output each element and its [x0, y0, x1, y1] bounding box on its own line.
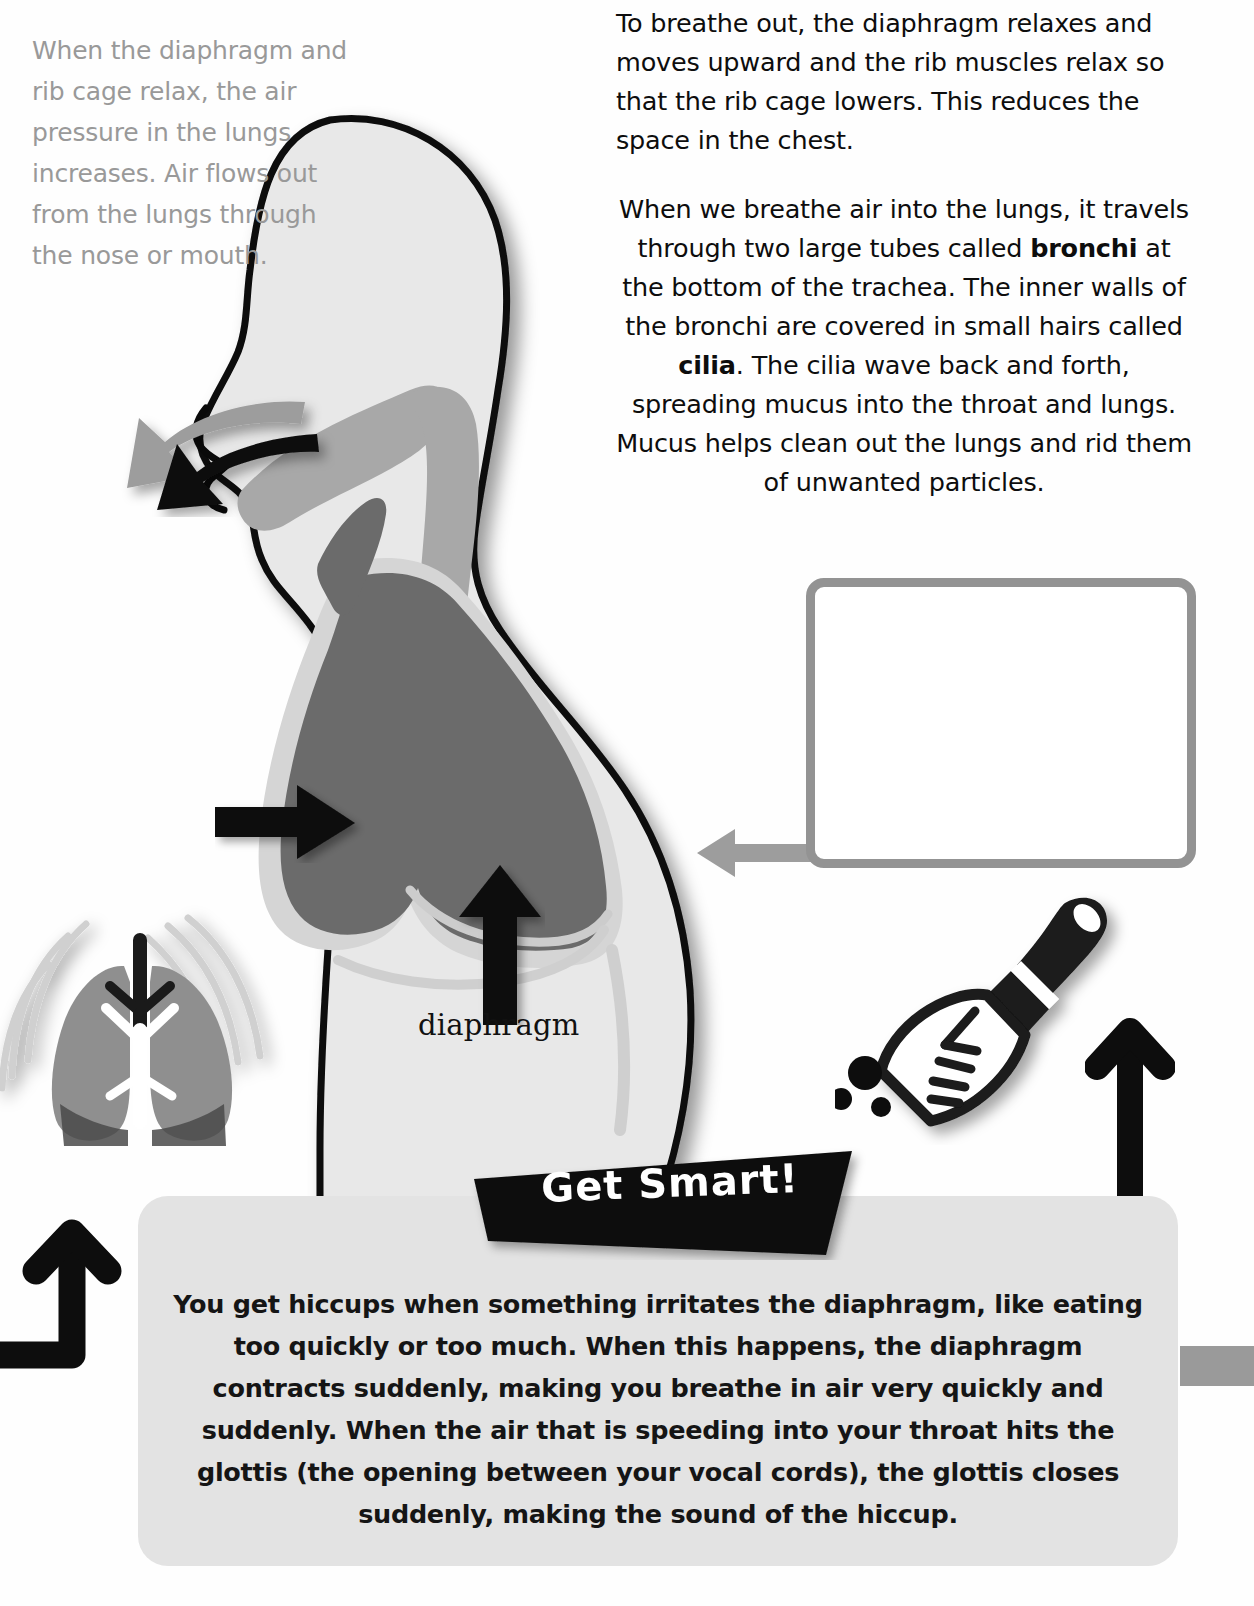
term-cilia: cilia [678, 350, 736, 380]
page-edge-tab [1180, 1346, 1254, 1386]
term-bronchi: bronchi [1030, 233, 1137, 263]
callout-box-text: When the diaphragm and rib cage relax, t… [32, 30, 362, 276]
arrow-elbow-up-page-icon [0, 1195, 160, 1375]
arrow-exhale-icons [105, 392, 335, 517]
arrow-exhale-black [157, 434, 319, 510]
arrow-up-diaphragm-icon [455, 865, 545, 1025]
callout-pointer-arrow-icon [697, 826, 815, 880]
callout-box [806, 578, 1196, 868]
diaphragm-label: diaphragm [418, 1008, 579, 1042]
paragraph-bronchi-cilia: When we breathe air into the lungs, it t… [616, 190, 1192, 502]
page-canvas: To breathe out, the diaphragm relaxes an… [0, 0, 1254, 1606]
get-smart-banner [470, 1135, 870, 1260]
get-smart-factbox-text: You get hiccups when something irritates… [168, 1283, 1148, 1535]
article-text-column: To breathe out, the diaphragm relaxes an… [616, 4, 1192, 532]
paragraph-breathe-out: To breathe out, the diaphragm relaxes an… [616, 4, 1192, 160]
lungs-illustration-small [0, 890, 310, 1150]
arrow-right-into-chest-icon [215, 783, 365, 863]
